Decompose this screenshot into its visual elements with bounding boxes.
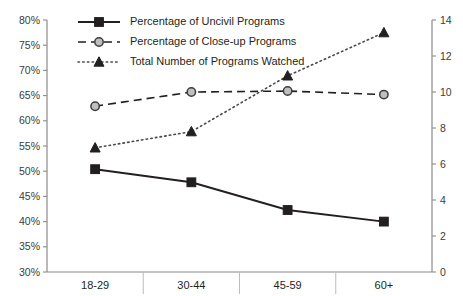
data-point-square (187, 178, 196, 187)
left-tick-label: 35% (19, 240, 40, 252)
right-tick-label: 2 (440, 230, 446, 242)
category-label: 30-44 (177, 279, 205, 291)
legend-item-2: Percentage of Close-up Programs (78, 35, 297, 47)
right-tick-label: 0 (440, 266, 446, 278)
right-axis-tick-labels: 02468101214 (440, 14, 452, 278)
right-tick-label: 8 (440, 122, 446, 134)
category-dividers (143, 272, 336, 294)
category-label: 45-59 (274, 279, 302, 291)
category-label: 60+ (375, 279, 394, 291)
right-tick-label: 6 (440, 158, 446, 170)
chart-legend: Percentage of Uncivil ProgramsPercentage… (78, 15, 304, 67)
left-tick-label: 70% (19, 64, 40, 76)
legend-label: Total Number of Programs Watched (130, 55, 304, 67)
data-point-triangle (283, 71, 293, 80)
category-labels: 18-2930-4445-5960+ (81, 279, 393, 291)
data-point-triangle (90, 143, 100, 152)
chart-container: 30%35%40%45%50%55%60%65%70%75%80% 024681… (0, 0, 463, 296)
right-tick-label: 10 (440, 86, 452, 98)
series-2 (91, 87, 388, 111)
legend-item-3: Total Number of Programs Watched (78, 55, 304, 67)
left-tick-label: 75% (19, 39, 40, 51)
series-line (95, 169, 384, 221)
data-point-triangle (186, 126, 196, 135)
data-point-triangle (379, 27, 389, 36)
left-tick-label: 40% (19, 215, 40, 227)
right-axis: 02468101214 (432, 14, 452, 278)
left-axis-tick-labels: 30%35%40%45%50%55%60%65%70%75%80% (19, 14, 40, 278)
x-axis: 18-2930-4445-5960+ (47, 272, 432, 294)
right-tick-label: 12 (440, 50, 452, 62)
data-point-square (91, 165, 100, 174)
right-tick-label: 14 (440, 14, 452, 26)
legend-label: Percentage of Uncivil Programs (130, 15, 285, 27)
line-chart: 30%35%40%45%50%55%60%65%70%75%80% 024681… (0, 0, 463, 296)
left-tick-label: 50% (19, 165, 40, 177)
left-axis: 30%35%40%45%50%55%60%65%70%75%80% (19, 14, 47, 278)
left-tick-label: 80% (19, 14, 40, 26)
data-point-circle-legend (95, 38, 103, 46)
right-tick-label: 4 (440, 194, 446, 206)
data-point-circle (91, 102, 99, 110)
data-point-circle (283, 87, 291, 95)
data-point-circle (187, 88, 195, 96)
legend-item-1: Percentage of Uncivil Programs (78, 15, 285, 27)
left-tick-label: 45% (19, 190, 40, 202)
data-point-circle (380, 90, 388, 98)
legend-label: Percentage of Close-up Programs (130, 35, 297, 47)
left-tick-label: 65% (19, 89, 40, 101)
left-tick-label: 60% (19, 114, 40, 126)
data-point-square-legend (95, 18, 104, 27)
series-1 (91, 165, 389, 226)
left-tick-label: 30% (19, 266, 40, 278)
data-point-square (283, 206, 292, 215)
series-line (95, 91, 384, 106)
series-line (95, 33, 384, 148)
left-tick-label: 55% (19, 140, 40, 152)
category-label: 18-29 (81, 279, 109, 291)
data-point-square (379, 217, 388, 226)
